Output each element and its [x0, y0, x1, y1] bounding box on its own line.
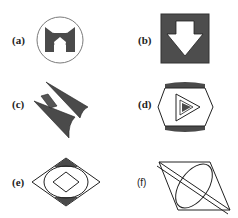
figure-f-parallelogram [157, 157, 230, 214]
figure-d-hexagon-play [158, 82, 213, 132]
figure-b-down-arrow-box [161, 14, 209, 63]
figure-a-mask-in-circle [37, 17, 83, 63]
figure-c-spikes [34, 82, 88, 138]
figures-canvas [0, 0, 238, 218]
figure-e-diamond-ellipse [32, 158, 100, 206]
